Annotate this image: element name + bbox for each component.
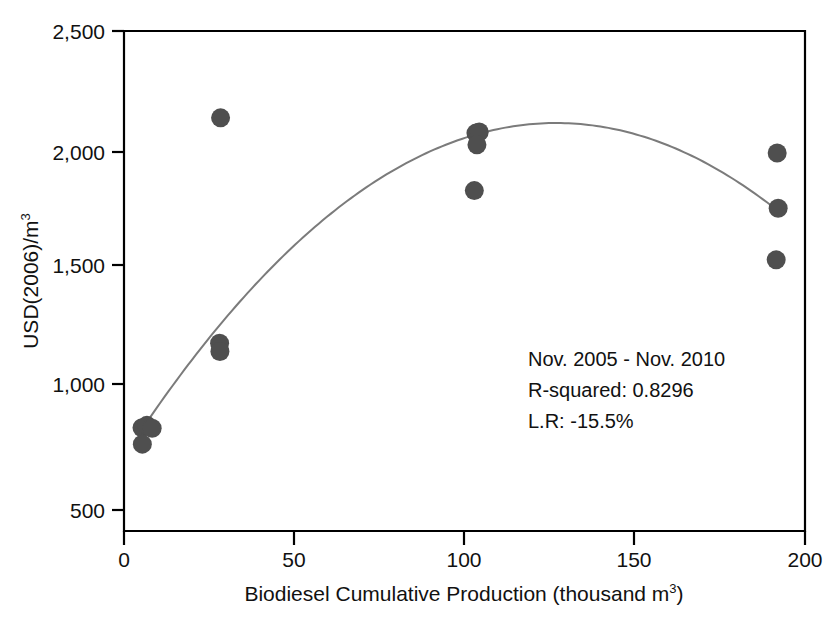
annotation-r-squared: R-squared: 0.8296 (528, 379, 694, 401)
annotation-block: Nov. 2005 - Nov. 2010 R-squared: 0.8296 … (528, 348, 725, 432)
x-tick-label-0: 0 (118, 548, 130, 571)
chart-figure: 2,500 2,000 1,500 1,000 500 0 50 100 150… (0, 0, 824, 617)
data-point (143, 419, 162, 438)
y-tick-label-1500: 1,500 (52, 254, 105, 277)
scatter-plot: 2,500 2,000 1,500 1,000 500 0 50 100 150… (0, 0, 824, 617)
y-axis-title-superscript: 3 (18, 213, 33, 220)
data-point (465, 181, 484, 200)
x-axis-title-main: Biodiesel Cumulative Production (thousan… (244, 582, 669, 605)
data-point (467, 135, 486, 154)
y-tick-label-2000: 2,000 (52, 141, 105, 164)
plot-axes (124, 31, 805, 531)
x-tick-label-100: 100 (446, 548, 481, 571)
data-point (767, 250, 786, 269)
x-tick-label-200: 200 (787, 548, 822, 571)
data-point (211, 108, 230, 127)
data-point (769, 199, 788, 218)
data-point (210, 342, 229, 361)
y-axis-ticks (112, 31, 124, 510)
x-axis-title: Biodiesel Cumulative Production (thousan… (244, 581, 683, 605)
x-axis-title-tail: ) (677, 582, 684, 605)
annotation-lr: L.R: -15.5% (528, 410, 634, 432)
y-tick-label-2500: 2,500 (52, 20, 105, 43)
axis-frame (124, 31, 805, 531)
x-axis-ticks (124, 531, 805, 545)
y-axis-title-main: USD(2006)/m (19, 220, 42, 348)
data-point (768, 144, 787, 163)
x-tick-label-150: 150 (616, 548, 651, 571)
y-axis-title: USD(2006)/m3 (18, 213, 42, 349)
x-tick-label-50: 50 (282, 548, 305, 571)
data-points-group (133, 108, 788, 453)
annotation-period: Nov. 2005 - Nov. 2010 (528, 348, 725, 370)
x-axis-tick-labels: 0 50 100 150 200 (118, 548, 822, 571)
y-tick-label-1000: 1,000 (52, 373, 105, 396)
data-point (133, 435, 152, 454)
y-axis-tick-labels: 2,500 2,000 1,500 1,000 500 (52, 20, 105, 522)
y-tick-label-500: 500 (70, 499, 105, 522)
x-axis-title-superscript: 3 (669, 581, 676, 596)
